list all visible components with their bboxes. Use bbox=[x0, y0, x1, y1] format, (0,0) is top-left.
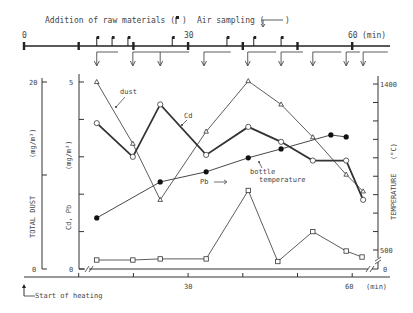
square-marker bbox=[131, 258, 135, 262]
flag-icon bbox=[176, 16, 179, 24]
flag-icon bbox=[172, 36, 175, 46]
series-line bbox=[97, 81, 363, 200]
open-circle-marker bbox=[94, 121, 99, 126]
cd-axis-5: 5 bbox=[69, 79, 73, 87]
right-axis: 1400 500 0 TEMPERATURE (°C) bbox=[373, 76, 398, 274]
timeline-major-tick bbox=[296, 42, 298, 50]
left-inner-axis: 5 0 Cd, Pb (mg/m³) bbox=[65, 74, 84, 274]
air-sampling-interval bbox=[279, 52, 303, 66]
timeline-tick-0: 0 bbox=[22, 31, 27, 40]
open-circle-marker bbox=[310, 158, 315, 163]
x-axis: 30 60 (min) bbox=[24, 273, 390, 291]
square-marker bbox=[95, 258, 99, 262]
temp-axis-500: 500 bbox=[380, 247, 393, 255]
open-circle-marker bbox=[158, 102, 163, 107]
series-pb bbox=[95, 188, 365, 263]
temp-axis-unit: (°C) bbox=[390, 143, 398, 160]
series-cd bbox=[94, 102, 366, 203]
dust-axis-unit: (mg/m³) bbox=[29, 128, 37, 158]
filled-circle-marker bbox=[246, 155, 251, 160]
filled-circle-marker bbox=[278, 146, 283, 151]
legend-addition-label: Addition of raw materials ( bbox=[45, 16, 175, 25]
pb-label: Pb bbox=[200, 178, 208, 186]
timeline-major-tick bbox=[351, 42, 353, 50]
air-sampling-interval bbox=[361, 52, 388, 66]
open-circle-marker bbox=[204, 152, 209, 157]
open-circle-marker bbox=[130, 154, 135, 159]
timeline: Addition of raw materials ( ) Air sampli… bbox=[22, 16, 390, 66]
legend-sampling-label: Air sampling ( bbox=[197, 16, 264, 25]
flag-icon bbox=[281, 36, 284, 46]
square-marker bbox=[276, 259, 280, 263]
series-line bbox=[97, 190, 362, 261]
series-line bbox=[97, 135, 346, 218]
flag-icon bbox=[227, 36, 230, 46]
air-sampling-interval bbox=[130, 52, 160, 66]
air-sampling-interval bbox=[94, 52, 118, 66]
x-unit: (min) bbox=[366, 283, 387, 291]
legend-addition-close: ) bbox=[182, 16, 187, 25]
left-outer-axis: 20 0 TOTAL DUST (mg/m³) bbox=[29, 78, 47, 274]
temp-axis-label: TEMPERATURE bbox=[390, 174, 398, 220]
timeline-major-tick bbox=[187, 42, 189, 50]
dust-axis-0: 0 bbox=[32, 266, 36, 274]
square-marker bbox=[311, 229, 315, 233]
temp-axis-0: 0 bbox=[383, 266, 387, 274]
filled-circle-marker bbox=[328, 132, 333, 137]
triangle-marker bbox=[131, 141, 136, 145]
triangle-marker bbox=[94, 80, 99, 84]
timeline-major-tick bbox=[23, 42, 25, 50]
open-circle-marker bbox=[246, 124, 251, 129]
timeline-unit: (min) bbox=[362, 31, 386, 40]
air-sampling-interval bbox=[201, 52, 230, 66]
flag-icon bbox=[97, 36, 100, 46]
dust-axis-20: 20 bbox=[29, 79, 37, 87]
square-marker bbox=[158, 257, 162, 261]
open-circle-marker bbox=[361, 197, 366, 202]
timeline-tick-30: 30 bbox=[184, 31, 194, 40]
cd-axis-0: 0 bbox=[69, 266, 73, 274]
filled-circle-marker bbox=[158, 179, 163, 184]
flag-icon bbox=[112, 36, 115, 46]
square-marker bbox=[204, 257, 208, 261]
dust-label: dust bbox=[120, 88, 137, 96]
air-sampling-interval bbox=[344, 52, 360, 66]
timeline-major-tick bbox=[132, 42, 134, 50]
chart: Addition of raw materials ( ) Air sampli… bbox=[0, 0, 413, 313]
air-sampling-interval bbox=[158, 52, 189, 66]
start-of-heating-annotation: Start of heating bbox=[22, 284, 102, 300]
filled-circle-marker bbox=[204, 169, 209, 174]
temp-axis-1400: 1400 bbox=[380, 81, 397, 89]
filled-circle-marker bbox=[344, 134, 349, 139]
bottle-label-line1: bottle bbox=[250, 168, 275, 176]
square-marker bbox=[360, 255, 364, 259]
square-marker bbox=[246, 188, 250, 192]
timeline-tick-60: 60 bbox=[348, 31, 358, 40]
arrow-up-icon bbox=[22, 284, 26, 288]
flag-icon bbox=[128, 36, 130, 46]
legend-sampling-close: ) bbox=[285, 16, 290, 25]
flag-icon bbox=[254, 36, 256, 46]
bottle-label-line2: temperature bbox=[259, 176, 305, 184]
cd-axis-label: Cd, Pb bbox=[65, 205, 73, 230]
dust-axis-label: TOTAL DUST bbox=[29, 195, 37, 238]
cd-label: Cd bbox=[184, 112, 192, 120]
air-sampling-interval bbox=[245, 52, 276, 66]
timeline-major-tick bbox=[78, 42, 80, 50]
timeline-major-tick bbox=[242, 42, 244, 50]
triangle-marker bbox=[246, 79, 251, 83]
filled-circle-marker bbox=[94, 215, 99, 220]
plot-baseline bbox=[79, 266, 378, 272]
square-marker bbox=[344, 249, 348, 253]
air-sampling-interval bbox=[310, 52, 341, 66]
triangle-marker bbox=[279, 102, 284, 106]
open-circle-marker bbox=[344, 158, 349, 163]
x-tick-30: 30 bbox=[184, 283, 192, 291]
open-circle-marker bbox=[278, 139, 283, 144]
cd-axis-unit: (mg/m³) bbox=[65, 140, 73, 170]
start-of-heating-label: Start of heating bbox=[35, 292, 102, 300]
x-tick-60: 60 bbox=[345, 283, 353, 291]
